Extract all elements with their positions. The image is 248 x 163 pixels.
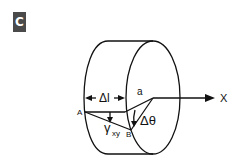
point-a-label: a — [137, 86, 143, 97]
x-axis-label: X — [220, 92, 228, 104]
gamma-label: γ — [104, 120, 111, 135]
point-B-label: B — [126, 130, 131, 139]
x-axis-arrowhead — [205, 94, 215, 102]
delta-theta-arrowhead — [131, 121, 137, 127]
gamma-subscript: xy — [112, 129, 120, 138]
delta-l-label: Δl — [99, 91, 110, 105]
delta-l-arrow-right — [118, 95, 125, 101]
delta-l-arrow-left — [85, 95, 92, 101]
point-A-label: A — [77, 108, 83, 117]
cylinder-diagram: Δl A a B γ xy Δθ X — [0, 0, 248, 163]
delta-theta-label: Δθ — [140, 113, 156, 128]
